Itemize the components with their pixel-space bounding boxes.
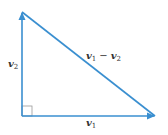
label-v1-minus-v2: v1−v2 [86, 51, 121, 63]
vector-triangle-diagram [0, 0, 168, 135]
vector-v1-minus-v2 [22, 12, 155, 116]
label-diff-left-sub: 1 [92, 55, 96, 63]
label-diff-right-sub: 2 [116, 55, 120, 63]
label-diff-operator: − [99, 50, 107, 61]
label-v1: v1 [86, 118, 96, 130]
right-angle-marker [22, 106, 32, 116]
label-v2: v2 [8, 59, 18, 71]
label-v1-sub: 1 [92, 122, 96, 130]
label-v2-sub: 2 [14, 63, 18, 71]
